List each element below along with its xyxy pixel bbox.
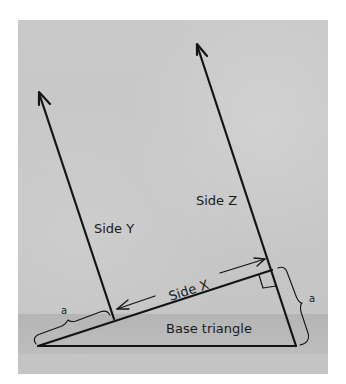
side-y-line [39, 93, 114, 319]
side-x-arrow-right [220, 259, 265, 273]
a-right-label: a [309, 293, 315, 304]
base-triangle-label: Base triangle [166, 321, 252, 336]
a-left-label: a [61, 305, 67, 316]
side-x-arrowhead-left [117, 300, 129, 309]
side-y-label: Side Y [94, 221, 134, 236]
side-x-label: Side X [167, 277, 211, 304]
side-z-label: Side Z [196, 193, 237, 208]
diagram-svg: Side Z Side Y Side X Base triangle a a [0, 0, 346, 384]
side-x-arrow-left [117, 296, 155, 309]
brace-left-a [34, 311, 110, 344]
